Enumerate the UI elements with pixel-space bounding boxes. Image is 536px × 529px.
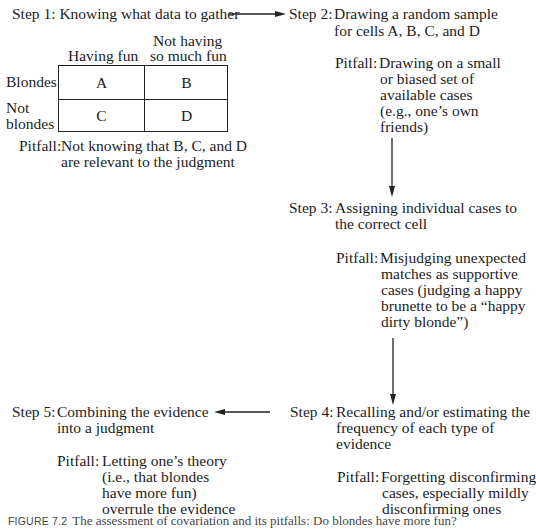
figure-caption-text: The assessment of covariation and its pi… [72, 513, 456, 528]
arrow-right-icon [229, 11, 286, 17]
arrow-down-icon [390, 338, 396, 405]
figure-label: FIGURE 7.2 [8, 515, 67, 527]
figure-caption: FIGURE 7.2The assessment of covariation … [8, 513, 457, 529]
arrow-down-icon [389, 138, 395, 197]
arrow-left-icon [214, 409, 270, 415]
